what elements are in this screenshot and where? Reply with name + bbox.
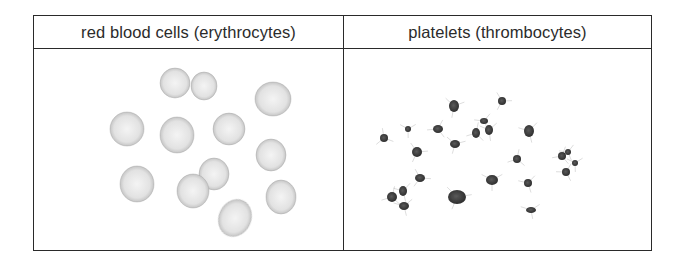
header-platelets: platelets (thrombocytes) xyxy=(344,16,651,49)
header-red-blood-cells: red blood cells (erythrocytes) xyxy=(34,16,343,49)
platelets-cell xyxy=(344,50,651,250)
red-blood-cells-cell xyxy=(34,50,343,250)
comparison-table: red blood cells (erythrocytes) platelets… xyxy=(33,15,652,251)
